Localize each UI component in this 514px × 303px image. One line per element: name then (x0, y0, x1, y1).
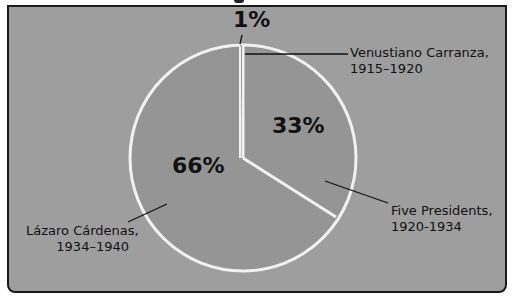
label-carranza-years: 1915–1920 (350, 61, 489, 77)
label-cardenas-name: Lázaro Cárdenas, (26, 223, 129, 239)
pct-cardenas: 66% (172, 153, 225, 178)
label-five-presidents-years: 1920-1934 (391, 219, 493, 235)
label-five-presidents: Five Presidents, 1920-1934 (391, 203, 493, 235)
leader-1pct (240, 35, 242, 44)
label-cardenas-years: 1934–1940 (26, 239, 129, 255)
label-carranza-name: Venustiano Carranza, (350, 45, 489, 61)
label-five-presidents-name: Five Presidents, (391, 203, 493, 219)
pct-five-presidents: 33% (272, 113, 325, 138)
label-cardenas: Lázaro Cárdenas, 1934–1940 (26, 223, 129, 255)
label-carranza: Venustiano Carranza, 1915–1920 (350, 45, 489, 77)
pct-carranza: 1% (233, 7, 270, 32)
